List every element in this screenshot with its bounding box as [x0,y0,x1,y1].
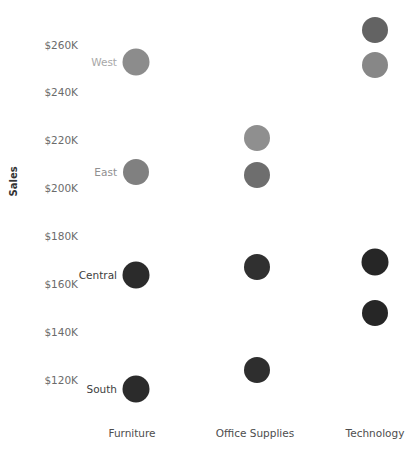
data-point-west-office-supplies[interactable] [244,125,270,151]
data-point-south-furniture[interactable] [123,376,150,403]
data-point-central-office-supplies[interactable] [244,254,270,280]
point-label-west: West [91,56,123,68]
x-axis-tick: Office Supplies [216,427,294,440]
data-point-south-technology[interactable] [362,300,388,326]
point-label-east: East [94,166,123,178]
data-point-west-furniture[interactable] [123,49,150,76]
data-point-east-office-supplies[interactable] [244,162,270,188]
scatter-chart: Sales $260K$240K$220K$200K$180K$160K$140… [0,0,416,452]
point-label-central: Central [79,269,123,281]
x-axis-tick: Furniture [108,427,155,440]
plot-area: WestEastCentralSouth [0,0,416,452]
x-axis-tick: Technology [346,427,405,440]
data-point-central-furniture[interactable] [123,262,150,289]
data-point-west-technology[interactable] [362,17,388,43]
data-point-central-technology[interactable] [362,249,389,276]
data-point-east-furniture[interactable] [123,159,149,185]
data-point-south-office-supplies[interactable] [244,357,270,383]
point-label-south: South [86,383,123,395]
data-point-east-technology[interactable] [362,52,388,78]
